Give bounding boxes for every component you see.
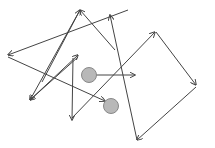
diagram-canvas (0, 0, 215, 148)
node-2-circle (104, 99, 119, 114)
arrow-13-arrow (137, 87, 196, 140)
nodes-layer (82, 68, 119, 114)
arrow-12-arrow (156, 32, 196, 85)
arrow-10-arrow (110, 15, 137, 140)
node-1-circle (82, 68, 97, 83)
arrow-8-arrow (72, 58, 73, 120)
arrow-7-arrow (30, 55, 78, 100)
diagram-svg (0, 0, 215, 148)
arrows-layer (8, 10, 196, 140)
